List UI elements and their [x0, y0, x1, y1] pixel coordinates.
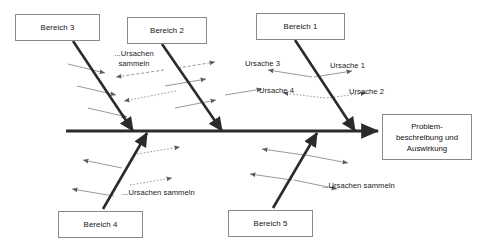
problem-statement-line-3: Auswirkung [396, 143, 458, 154]
category-label-bereich-1: Bereich 1 [284, 22, 318, 31]
category-box-bereich-4[interactable]: Bereich 4 [58, 211, 143, 238]
cause-label-ursache-3[interactable]: Ursache 3 [245, 59, 280, 69]
problem-statement-text: Problem-beschreibung undAuswirkung [396, 121, 458, 154]
hint-bereich-2-line-2: sammeln [103, 59, 165, 69]
cause-line-b3-hint [116, 70, 164, 77]
hint-bereich-5-line-1: ...Ursachen sammeln [322, 181, 412, 191]
cause-line-b1-1 [268, 70, 312, 77]
cause-line-b2-4 [225, 89, 262, 95]
hint-bereich-2-line-1: ...Ursachen [103, 49, 165, 59]
problem-statement-line-1: Problem- [396, 121, 458, 132]
cause-line-b3-1 [68, 64, 105, 73]
category-label-bereich-2: Bereich 2 [150, 26, 184, 35]
hint-bereich-4-line-1: ...Ursachen sammeln [122, 188, 212, 198]
cause-line-b2-3 [175, 100, 216, 108]
category-box-bereich-1[interactable]: Bereich 1 [256, 13, 345, 40]
cause-line-b4-2 [83, 160, 122, 168]
cause-line-b4-3 [130, 178, 172, 185]
cause-label-ursache-1[interactable]: Ursache 1 [330, 61, 365, 71]
cause-line-b3-2 [77, 86, 116, 95]
category-label-bereich-4: Bereich 4 [84, 220, 118, 229]
fishbone-diagram-canvas: Bereich 3Bereich 2Bereich 1Bereich 4Bere… [0, 0, 480, 250]
problem-statement-line-2: beschreibung und [396, 132, 458, 143]
problem-statement-box[interactable]: Problem-beschreibung undAuswirkung [382, 114, 472, 160]
cause-line-b3-4 [124, 91, 176, 101]
category-label-bereich-3: Bereich 3 [41, 23, 75, 32]
category-box-bereich-3[interactable]: Bereich 3 [15, 14, 100, 41]
category-bone-bereich-2 [162, 44, 222, 131]
category-bone-bereich-4 [103, 133, 147, 209]
category-box-bereich-5[interactable]: Bereich 5 [228, 210, 313, 237]
hint-bereich-5: ...Ursachen sammeln [322, 181, 412, 191]
cause-line-b4-1 [137, 147, 180, 154]
hint-bereich-4: ...Ursachen sammeln [122, 188, 212, 198]
cause-label-ursache-4[interactable]: Ursache 4 [259, 86, 294, 96]
cause-line-b5-1 [306, 155, 348, 163]
cause-line-b5-4 [250, 174, 292, 180]
cause-line-b4-4 [72, 189, 114, 196]
cause-label-ursache-2[interactable]: Ursache 2 [349, 87, 384, 97]
category-bone-bereich-5 [273, 133, 317, 208]
hint-bereich-2: ...Ursachensammeln [103, 49, 165, 68]
cause-line-b2-1 [178, 62, 215, 68]
category-box-bereich-2[interactable]: Bereich 2 [127, 17, 207, 44]
cause-line-b5-2 [262, 149, 304, 155]
category-label-bereich-5: Bereich 5 [254, 219, 288, 228]
category-bone-bereich-1 [295, 40, 355, 131]
